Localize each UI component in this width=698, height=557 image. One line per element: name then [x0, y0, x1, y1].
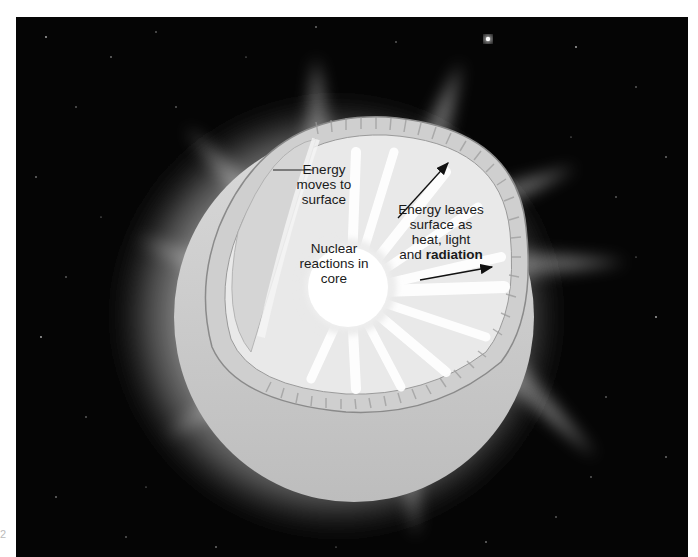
label-energy-leaves-surface: Energy leaves surface as heat, light and…	[391, 202, 491, 262]
label-line: Energy leaves	[391, 202, 491, 217]
space-background: Energy moves to surface Nuclear reaction…	[16, 17, 688, 557]
label-energy-moves-to-surface: Energy moves to surface	[284, 162, 364, 207]
label-line: Nuclear	[284, 241, 384, 256]
label-line: heat, light	[391, 232, 491, 247]
star-illustration	[16, 17, 688, 557]
label-line: surface	[284, 192, 364, 207]
label-radiation-bold: radiation	[426, 247, 483, 262]
label-nuclear-reactions-in-core: Nuclear reactions in core	[284, 241, 384, 286]
label-line: moves to	[284, 177, 364, 192]
label-line: core	[284, 271, 384, 286]
label-line: and radiation	[391, 247, 491, 262]
label-line: Energy	[284, 162, 364, 177]
label-line: reactions in	[284, 256, 384, 271]
label-line: surface as	[391, 217, 491, 232]
page-marker: 2	[0, 528, 6, 540]
label-and: and	[399, 247, 425, 262]
